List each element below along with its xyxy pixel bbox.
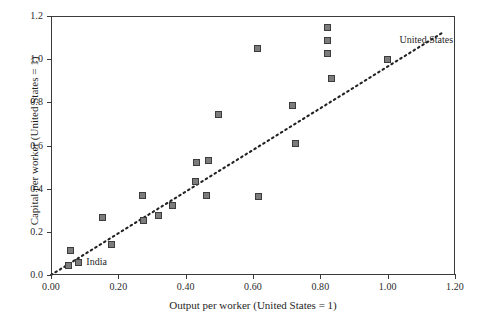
data-point-marker bbox=[193, 159, 200, 166]
x-axis-tick-label: 1.20 bbox=[435, 281, 475, 292]
y-axis-tick-label: 1.2 bbox=[13, 10, 43, 21]
data-point-marker bbox=[67, 247, 74, 254]
point-annotation-label: India bbox=[86, 256, 107, 267]
x-axis-tick-label: 0.40 bbox=[166, 281, 206, 292]
data-point-marker bbox=[292, 140, 299, 147]
y-axis-tick bbox=[47, 146, 52, 147]
data-point-marker bbox=[155, 212, 162, 219]
y-axis-tick-label: 0.0 bbox=[13, 269, 43, 280]
data-point-marker bbox=[324, 24, 331, 31]
data-point-marker bbox=[65, 262, 72, 269]
x-axis-tick-label: 0.20 bbox=[98, 281, 138, 292]
x-axis-tick-label: 1.00 bbox=[368, 281, 408, 292]
x-axis-tick bbox=[320, 274, 321, 279]
x-axis-tick-label: 0.60 bbox=[233, 281, 273, 292]
y-axis-tick bbox=[47, 275, 52, 276]
data-point-marker bbox=[99, 214, 106, 221]
data-point-marker bbox=[254, 45, 261, 52]
data-point-marker bbox=[203, 192, 210, 199]
y-axis-tick bbox=[47, 102, 52, 103]
data-point-marker bbox=[324, 37, 331, 44]
data-point-marker bbox=[75, 259, 82, 266]
x-axis-title: Output per worker (United States = 1) bbox=[51, 299, 455, 311]
y-axis-title: Capital per worker (United States = 1) bbox=[28, 21, 40, 261]
x-axis-tick-label: 0.80 bbox=[300, 281, 340, 292]
x-axis-tick bbox=[253, 274, 254, 279]
x-axis-tick bbox=[388, 274, 389, 279]
y-axis-tick bbox=[47, 189, 52, 190]
data-point-marker bbox=[215, 111, 222, 118]
x-axis-tick-label: 0.00 bbox=[31, 281, 71, 292]
data-point-marker bbox=[384, 56, 391, 63]
data-point-marker bbox=[169, 202, 176, 209]
data-point-marker bbox=[192, 178, 199, 185]
scatter-chart-figure: 0.000.200.400.600.801.001.200.00.20.40.6… bbox=[0, 0, 481, 326]
data-point-marker bbox=[205, 157, 212, 164]
y-axis-tick bbox=[47, 232, 52, 233]
y-axis-tick bbox=[47, 59, 52, 60]
y-axis-tick bbox=[47, 16, 52, 17]
data-point-marker bbox=[140, 217, 147, 224]
data-point-marker bbox=[255, 193, 262, 200]
data-point-marker bbox=[139, 192, 146, 199]
data-point-marker bbox=[289, 102, 296, 109]
x-axis-tick bbox=[455, 274, 456, 279]
point-annotation-label: United States bbox=[399, 34, 453, 45]
data-point-marker bbox=[108, 241, 115, 248]
data-point-marker bbox=[324, 50, 331, 57]
plot-area-frame bbox=[51, 16, 455, 275]
x-axis-tick bbox=[186, 274, 187, 279]
data-point-marker bbox=[328, 75, 335, 82]
x-axis-tick bbox=[118, 274, 119, 279]
